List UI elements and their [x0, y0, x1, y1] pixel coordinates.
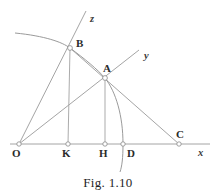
- point-label-H: H: [99, 148, 108, 159]
- point-marker-K: [66, 142, 70, 146]
- point-label-C: C: [176, 129, 184, 140]
- geometry-drawing: [0, 0, 216, 196]
- axis-label-z: z: [90, 14, 94, 25]
- point-label-A: A: [103, 63, 111, 74]
- point-marker-B: [68, 46, 73, 51]
- ray-O-to-z: [19, 11, 86, 144]
- point-marker-A: [103, 76, 108, 81]
- ray-O-to-y: [19, 50, 139, 144]
- point-label-O: O: [12, 148, 21, 159]
- line-B-through-A-to-C: [70, 48, 179, 144]
- figure-container: O K H D C A B x y z Fig. 1.10: [0, 0, 216, 196]
- figure-caption: Fig. 1.10: [0, 175, 216, 191]
- point-marker-C: [177, 142, 181, 146]
- point-marker-H: [103, 142, 107, 146]
- axis-label-y: y: [144, 51, 149, 62]
- axis-label-x: x: [198, 148, 203, 159]
- point-label-D: D: [127, 148, 135, 159]
- point-marker-D: [121, 142, 125, 146]
- point-marker-O: [17, 142, 21, 146]
- point-label-K: K: [62, 148, 71, 159]
- point-label-B: B: [76, 38, 84, 49]
- perpendicular-B-to-K: [68, 48, 70, 144]
